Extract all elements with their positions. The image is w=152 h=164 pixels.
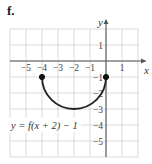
svg-text:x: x	[143, 64, 149, 76]
svg-text:1: 1	[98, 41, 103, 51]
graph: xy −5−4−3−2−111−1−2−3−4−5 y = f(x + 2) −…	[0, 0, 152, 164]
axes: xy	[10, 16, 149, 157]
svg-text:y: y	[97, 16, 103, 28]
svg-text:−3: −3	[93, 105, 103, 115]
svg-text:1: 1	[120, 63, 125, 73]
svg-text:−1: −1	[93, 73, 103, 83]
svg-text:−4: −4	[93, 121, 103, 131]
svg-text:−4: −4	[37, 63, 47, 73]
grid	[10, 29, 138, 157]
svg-text:y = f(x + 2) − 1: y = f(x + 2) − 1	[10, 120, 78, 132]
svg-text:−2: −2	[69, 63, 79, 73]
svg-text:−1: −1	[85, 63, 95, 73]
svg-text:−5: −5	[93, 137, 103, 147]
equation-label: y = f(x + 2) − 1	[9, 118, 81, 132]
svg-text:−5: −5	[21, 63, 31, 73]
svg-text:−3: −3	[53, 63, 63, 73]
